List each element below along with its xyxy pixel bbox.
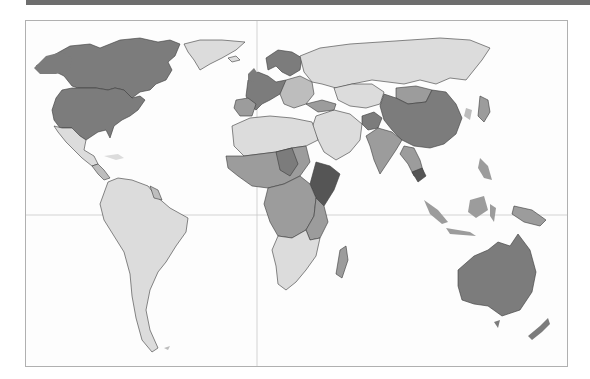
region-tasmania	[494, 320, 500, 328]
region-falklands	[164, 346, 170, 350]
region-japan	[478, 96, 490, 122]
region-alaska	[34, 52, 72, 74]
region-philippines	[478, 158, 492, 180]
region-south-america	[100, 178, 188, 352]
region-madagascar	[336, 246, 348, 278]
region-java	[446, 228, 476, 236]
region-scandinavia	[266, 50, 302, 76]
region-australia	[458, 234, 536, 316]
region-sulawesi	[490, 204, 496, 222]
region-turkey-iran	[306, 100, 336, 112]
region-iceland	[228, 56, 240, 62]
region-new-zealand	[528, 318, 550, 340]
region-central-america	[92, 164, 110, 180]
region-russia	[300, 38, 490, 88]
world-map	[0, 0, 590, 379]
region-kazakhstan	[334, 84, 384, 108]
region-greenland	[184, 40, 245, 70]
region-caribbean	[104, 154, 124, 160]
region-middle-east	[312, 110, 362, 160]
region-new-guinea	[512, 206, 546, 226]
region-korea	[464, 108, 472, 120]
region-sumatra	[424, 200, 448, 224]
region-afghanistan	[362, 112, 382, 130]
